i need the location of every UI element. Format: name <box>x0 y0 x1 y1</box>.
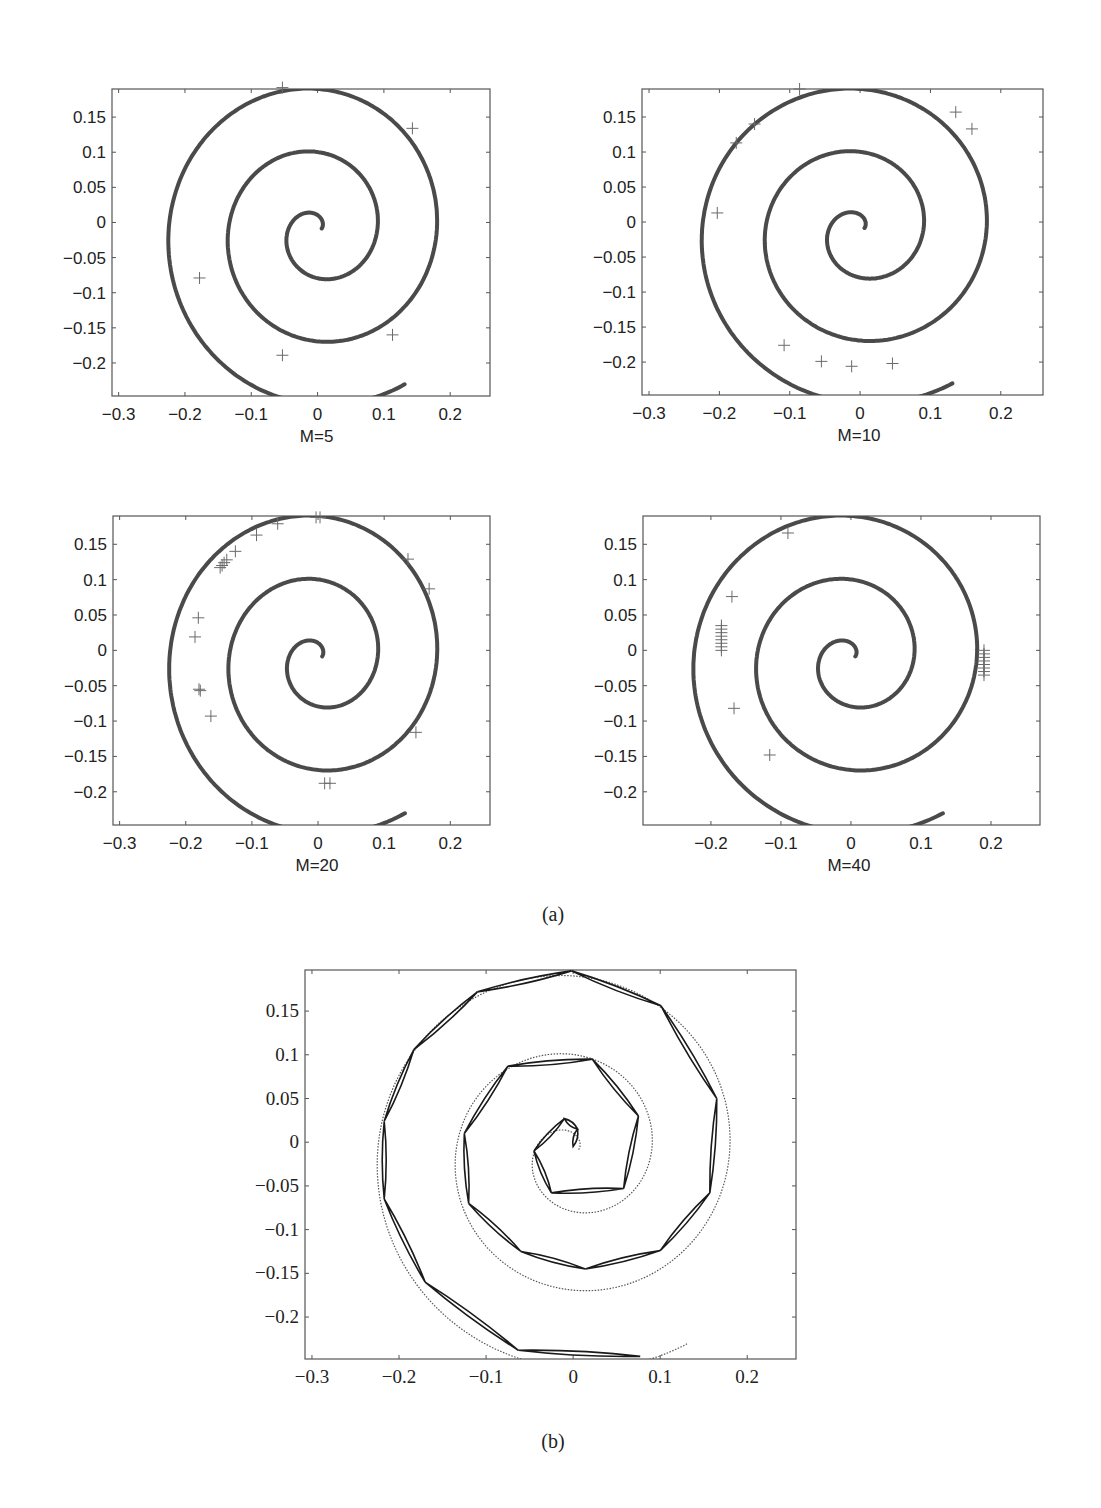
spiral-curve <box>169 516 437 834</box>
axes-box <box>643 516 1040 825</box>
x-tick-label: −0.2 <box>382 1366 416 1387</box>
y-tick-label: −0.2 <box>73 783 107 802</box>
y-tick-label: −0.1 <box>603 712 637 731</box>
x-tick-label: 0.2 <box>735 1366 759 1387</box>
x-tick-label: −0.3 <box>632 404 666 423</box>
plus-marker <box>978 669 990 681</box>
axes-box <box>305 970 796 1359</box>
x-tick-label: 0.2 <box>979 834 1003 853</box>
plus-marker <box>387 329 399 341</box>
y-tick-label: −0.2 <box>72 354 106 373</box>
y-tick-label: 0.05 <box>603 178 636 197</box>
x-tick-label: 0 <box>313 405 322 424</box>
y-tick-label: 0 <box>627 213 636 232</box>
polygon-segment <box>382 1121 386 1199</box>
plot-b-polygon: −0.3−0.2−0.100.10.20.150.10.050−0.05−0.1… <box>255 970 796 1387</box>
y-tick-label: −0.15 <box>63 319 106 338</box>
caption-b: (b) <box>541 1430 564 1453</box>
x-tick-label: 0.2 <box>438 834 462 853</box>
x-axis-label: M=40 <box>827 856 870 875</box>
y-tick-label: 0.15 <box>74 535 107 554</box>
x-tick-label: 0 <box>568 1366 578 1387</box>
polygon-segment <box>518 1350 640 1356</box>
y-tick-label: −0.15 <box>594 747 637 766</box>
y-tick-label: −0.05 <box>594 677 637 696</box>
polygon-segment <box>660 1193 710 1251</box>
x-tick-label: −0.2 <box>703 404 737 423</box>
y-tick-label: 0.15 <box>603 108 636 127</box>
polygon-segment <box>384 1050 414 1122</box>
x-tick-label: 0.1 <box>372 834 396 853</box>
plus-marker <box>189 631 201 643</box>
y-tick-label: 0.05 <box>73 178 106 197</box>
polygon-segment <box>571 971 661 1006</box>
plot-m10: −0.3−0.2−0.100.10.20.150.10.050−0.05−0.1… <box>593 83 1043 445</box>
y-tick-label: 0.1 <box>613 571 637 590</box>
plus-marker <box>886 357 898 369</box>
polygon-segment <box>661 1006 717 1099</box>
polygon-segment <box>384 1199 425 1282</box>
plot-m40: −0.2−0.100.10.20.150.10.050−0.05−0.1−0.1… <box>594 516 1040 876</box>
spiral-curve <box>693 516 977 834</box>
y-tick-label: 0.05 <box>74 606 107 625</box>
y-tick-label: 0.05 <box>604 606 637 625</box>
x-tick-label: −0.1 <box>234 405 268 424</box>
plus-marker <box>402 553 414 565</box>
x-tick-label: 0.2 <box>989 404 1013 423</box>
polygon-segment <box>710 1099 717 1193</box>
spiral-curve <box>168 89 437 405</box>
x-tick-label: 0 <box>846 834 855 853</box>
y-tick-label: −0.05 <box>593 248 636 267</box>
y-tick-label: −0.05 <box>255 1175 299 1196</box>
x-tick-label: −0.1 <box>235 834 269 853</box>
plus-marker <box>324 777 336 789</box>
y-tick-label: −0.2 <box>265 1306 299 1327</box>
polygon-segment <box>624 1116 639 1189</box>
x-tick-label: 0.1 <box>919 404 943 423</box>
y-tick-label: −0.1 <box>73 712 107 731</box>
plus-marker <box>194 685 206 697</box>
plus-marker <box>794 83 806 95</box>
plus-marker <box>846 360 858 372</box>
x-axis-label: M=5 <box>300 427 334 446</box>
caption-a: (a) <box>542 903 564 926</box>
y-tick-label: −0.15 <box>255 1262 299 1283</box>
plus-marker <box>764 749 776 761</box>
polygon-segment <box>469 1203 521 1251</box>
y-tick-label: 0.15 <box>73 108 106 127</box>
y-tick-label: 0 <box>628 641 637 660</box>
y-tick-label: 0.1 <box>82 143 106 162</box>
x-axis-label: M=20 <box>296 856 339 875</box>
x-tick-label: −0.2 <box>694 834 728 853</box>
plus-marker <box>276 349 288 361</box>
x-tick-label: 0 <box>313 834 322 853</box>
y-tick-label: 0.1 <box>612 143 636 162</box>
y-tick-label: −0.15 <box>593 318 636 337</box>
y-tick-label: −0.2 <box>602 353 636 372</box>
x-tick-label: −0.2 <box>168 405 202 424</box>
x-tick-label: 0.1 <box>909 834 933 853</box>
plot-m20: −0.3−0.2−0.100.10.20.150.10.050−0.05−0.1… <box>64 511 490 875</box>
y-tick-label: 0.15 <box>266 1000 299 1021</box>
plus-marker <box>815 355 827 367</box>
plus-marker <box>229 545 241 557</box>
y-tick-label: −0.15 <box>64 747 107 766</box>
y-tick-label: 0 <box>97 213 106 232</box>
plus-marker <box>778 339 790 351</box>
plus-marker <box>193 683 205 695</box>
polygon-segment <box>573 1129 578 1146</box>
x-tick-label: 0.2 <box>438 405 462 424</box>
y-tick-label: −0.2 <box>603 783 637 802</box>
x-tick-label: −0.2 <box>169 834 203 853</box>
polygon-segment <box>564 1119 577 1129</box>
polygon-segment <box>464 1133 469 1203</box>
plot-m5: −0.3−0.2−0.100.10.20.150.10.050−0.05−0.1… <box>63 82 490 446</box>
plus-marker <box>205 710 217 722</box>
y-tick-label: 0.1 <box>83 571 107 590</box>
plus-marker <box>715 644 727 656</box>
plus-marker <box>726 591 738 603</box>
polygon-segment <box>464 1066 508 1133</box>
polygon-segment <box>508 1059 592 1066</box>
plus-marker <box>192 612 204 624</box>
plus-marker <box>966 123 978 135</box>
